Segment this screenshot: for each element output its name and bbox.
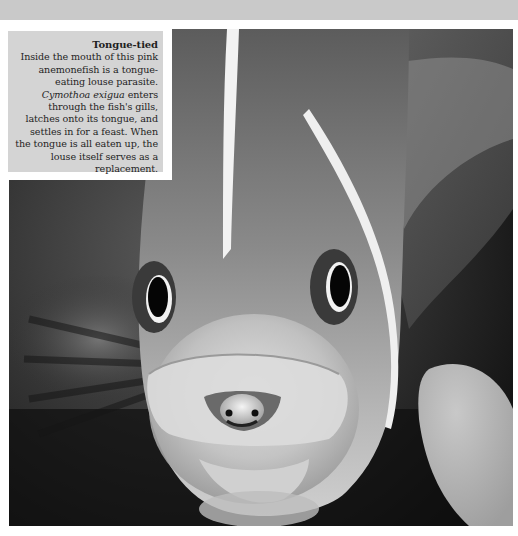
- caption-title: Tongue-tied: [12, 39, 158, 51]
- caption-text-part1: Inside the mouth of this pink anemonefis…: [21, 51, 158, 87]
- caption-text-part2: enters through the fish's gills, latches…: [15, 89, 158, 174]
- caption-box: Tongue-tied Inside the mouth of this pin…: [8, 31, 163, 172]
- header-band: [0, 0, 518, 20]
- caption-body: Inside the mouth of this pink anemonefis…: [15, 51, 158, 174]
- species-name: Cymothoa exigua: [42, 89, 125, 100]
